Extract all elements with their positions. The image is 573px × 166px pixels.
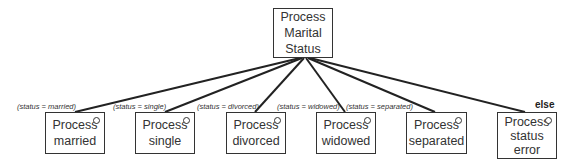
root-line-3: Status	[285, 41, 320, 57]
module-marker-icon	[274, 117, 281, 124]
box-line: error	[514, 143, 540, 157]
process-status-error-box: Process status error	[497, 112, 557, 159]
root-line-2: Marital	[284, 25, 322, 41]
box-line: widowed	[322, 133, 371, 149]
box-line: Process	[52, 117, 97, 133]
box-line: separated	[409, 133, 465, 149]
box-line: married	[54, 133, 96, 149]
box-line: divorced	[232, 133, 279, 149]
box-line: Process	[233, 117, 278, 133]
condition-separated: (status = separated)	[346, 102, 413, 111]
process-divorced-box: Process divorced	[226, 112, 286, 154]
condition-widowed: (status = widowed)	[277, 102, 340, 111]
module-marker-icon	[364, 117, 371, 124]
box-line: Process	[414, 117, 459, 133]
condition-single: (status = single)	[113, 102, 166, 111]
box-line: single	[149, 133, 182, 149]
module-marker-icon	[93, 117, 100, 124]
condition-else: else	[535, 99, 554, 110]
root-line-1: Process	[280, 9, 325, 25]
process-single-box: Process single	[135, 112, 195, 154]
condition-married: (status = married)	[17, 102, 76, 111]
process-widowed-box: Process widowed	[316, 112, 376, 154]
module-marker-icon	[455, 117, 462, 124]
module-marker-icon	[183, 117, 190, 124]
box-line: status	[510, 129, 543, 143]
process-marital-status-box: Process Marital Status	[273, 8, 333, 58]
process-married-box: Process married	[45, 112, 105, 154]
process-separated-box: Process separated	[406, 112, 467, 154]
box-line: Process	[504, 115, 549, 129]
condition-divorced: (status = divorced)	[197, 102, 259, 111]
box-line: Process	[142, 117, 187, 133]
box-line: Process	[323, 117, 368, 133]
module-marker-icon	[545, 117, 552, 124]
